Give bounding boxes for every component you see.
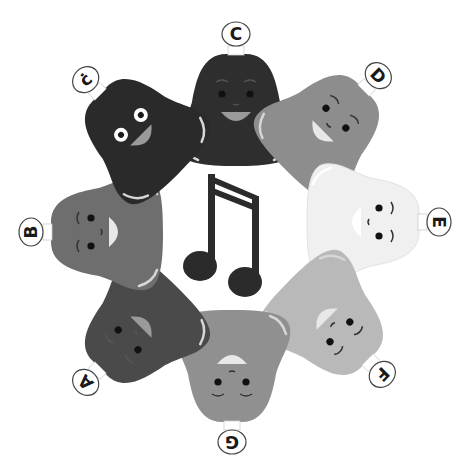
illustration-canvas: CDEFGABċ (0, 0, 473, 474)
beamed-eighth-notes-icon (183, 174, 262, 297)
bell-note-label: G (225, 432, 239, 452)
bell-c-high: ċ (36, 30, 220, 214)
bell-note-label: E (429, 216, 449, 228)
bells-group: CDEFGABċ (19, 22, 451, 454)
bell-note-label: C (230, 24, 242, 44)
bell-ring-illustration: CDEFGABċ (0, 0, 473, 474)
bell-note-label: B (21, 226, 41, 239)
